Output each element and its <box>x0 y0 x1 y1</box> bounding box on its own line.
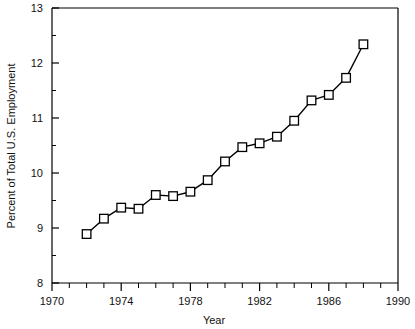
data-point-marker <box>342 74 351 83</box>
x-tick-label: 1970 <box>40 295 64 307</box>
x-axis-tick-labels: 197019741978198219861990 <box>40 295 410 307</box>
y-tick-label: 12 <box>31 57 43 69</box>
x-axis-title: Year <box>203 314 226 326</box>
data-point-marker <box>100 214 109 223</box>
series-line <box>87 44 364 234</box>
line-chart: 8910111213 197019741978198219861990 Year… <box>0 0 415 329</box>
data-point-marker <box>325 91 334 100</box>
data-point-marker <box>290 116 299 125</box>
x-axis-ticks <box>52 283 398 291</box>
data-markers <box>82 40 367 238</box>
y-tick-label: 9 <box>37 222 43 234</box>
data-point-marker <box>117 203 126 212</box>
chart-container: 8910111213 197019741978198219861990 Year… <box>0 0 415 329</box>
x-tick-label: 1978 <box>178 295 202 307</box>
y-tick-label: 8 <box>37 277 43 289</box>
x-tick-label: 1986 <box>317 295 341 307</box>
y-axis-title: Percent of Total U.S. Employment <box>5 64 17 229</box>
data-point-marker <box>169 192 178 201</box>
x-tick-label: 1974 <box>109 295 133 307</box>
data-point-marker <box>238 143 247 152</box>
y-axis-ticks <box>52 8 59 283</box>
x-tick-label: 1982 <box>247 295 271 307</box>
data-point-marker <box>273 132 282 141</box>
data-point-marker <box>307 96 316 105</box>
data-point-marker <box>134 204 143 213</box>
data-point-marker <box>82 230 91 239</box>
data-point-marker <box>203 176 212 185</box>
y-tick-label: 10 <box>31 167 43 179</box>
data-point-marker <box>152 191 161 200</box>
y-tick-label: 11 <box>32 112 43 124</box>
data-point-marker <box>255 139 264 148</box>
x-tick-label: 1990 <box>386 295 410 307</box>
data-point-marker <box>359 40 368 49</box>
data-series <box>87 44 364 234</box>
y-tick-label: 13 <box>31 2 43 14</box>
y-axis-tick-labels: 8910111213 <box>31 2 43 289</box>
plot-frame <box>52 8 398 283</box>
data-point-marker <box>186 187 195 196</box>
data-point-marker <box>221 157 230 166</box>
